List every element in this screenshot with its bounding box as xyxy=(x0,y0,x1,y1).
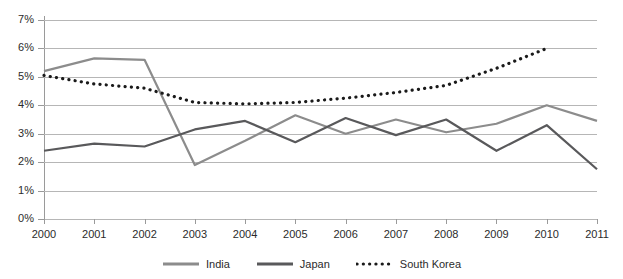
legend-item-south-korea[interactable]: South Korea xyxy=(356,258,461,270)
legend-swatch-icon xyxy=(356,259,394,269)
chart-legend: IndiaJapanSouth Korea xyxy=(0,258,623,270)
legend-item-india[interactable]: India xyxy=(162,258,230,270)
series-layer xyxy=(0,0,623,279)
legend-label: Japan xyxy=(300,258,330,270)
legend-label: India xyxy=(206,258,230,270)
series-line-japan xyxy=(44,118,597,169)
series-line-south-korea xyxy=(44,48,547,103)
line-chart: 0%1%2%3%4%5%6%7% 20002001200220032004200… xyxy=(0,0,623,279)
series-line-india xyxy=(44,58,597,165)
legend-label: South Korea xyxy=(400,258,461,270)
legend-swatch-icon xyxy=(256,259,294,269)
legend-swatch-icon xyxy=(162,259,200,269)
legend-item-japan[interactable]: Japan xyxy=(256,258,330,270)
